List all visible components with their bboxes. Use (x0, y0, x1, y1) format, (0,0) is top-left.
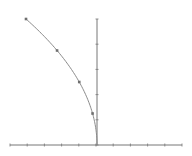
data-point-marker (91, 112, 94, 115)
data-point-marker (25, 18, 28, 21)
data-point-marker (56, 49, 59, 52)
data-point-marker (78, 81, 81, 84)
sqrt-curve (26, 19, 97, 145)
function-plot (0, 0, 192, 156)
data-markers (25, 18, 94, 115)
y-axis (96, 19, 99, 145)
